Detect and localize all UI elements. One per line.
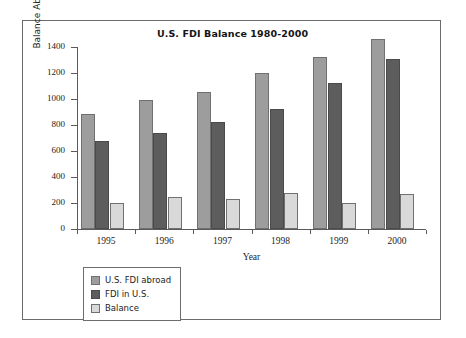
y-axis-tick-label: 1400 — [25, 42, 65, 51]
y-axis-tick-label: 200 — [25, 198, 65, 207]
x-axis-tick — [135, 230, 136, 234]
bar-1995-series-2 — [110, 203, 124, 229]
bar-1998-series-1 — [270, 109, 284, 229]
y-axis-tick-label: 1200 — [25, 68, 65, 77]
bar-2000-series-1 — [386, 59, 400, 229]
x-axis-tick — [252, 230, 253, 234]
y-axis-title: Balance Abroad (in billions of collars) — [30, 0, 44, 61]
bar-2000-series-0 — [371, 39, 385, 229]
bar-1999-series-2 — [342, 203, 356, 229]
chart-legend: U.S. FDI abroadFDI in U.S.Balance — [83, 267, 181, 321]
x-axis-tick-label: 1998 — [254, 236, 308, 246]
plot-area — [77, 47, 426, 229]
x-axis-tick-label: 1996 — [137, 236, 191, 246]
x-axis-tick-label: 1997 — [195, 236, 249, 246]
bar-1996-series-1 — [153, 133, 167, 229]
legend-swatch-icon — [91, 304, 100, 313]
legend-label: Balance — [105, 303, 139, 313]
y-axis-tick-label: 400 — [25, 172, 65, 181]
bar-1998-series-2 — [284, 193, 298, 229]
x-axis-tick-label: 2000 — [370, 236, 424, 246]
legend-label: FDI in U.S. — [105, 289, 149, 299]
legend-item: FDI in U.S. — [91, 287, 171, 301]
bar-1996-series-0 — [139, 100, 153, 229]
x-axis-tick-label: 1995 — [79, 236, 133, 246]
bar-1996-series-2 — [168, 197, 182, 229]
chart-title: U.S. FDI Balance 1980-2000 — [23, 28, 442, 39]
x-axis-title: Year — [77, 252, 426, 262]
legend-swatch-icon — [91, 276, 100, 285]
bar-1995-series-0 — [81, 114, 95, 229]
x-axis-tick — [310, 230, 311, 234]
x-axis-tick — [77, 230, 78, 234]
legend-swatch-icon — [91, 290, 100, 299]
bar-1997-series-2 — [226, 199, 240, 229]
legend-item: Balance — [91, 301, 171, 315]
y-axis-tick-label: 600 — [25, 146, 65, 155]
bar-1998-series-0 — [255, 73, 269, 229]
bar-1997-series-1 — [211, 122, 225, 229]
bar-2000-series-2 — [400, 194, 414, 229]
legend-label: U.S. FDI abroad — [105, 275, 171, 285]
y-axis-tick-label: 0 — [25, 224, 65, 233]
bar-1999-series-1 — [328, 83, 342, 229]
bar-1999-series-0 — [313, 57, 327, 229]
y-axis-tick-label: 800 — [25, 120, 65, 129]
x-axis-tick — [368, 230, 369, 234]
legend-item: U.S. FDI abroad — [91, 273, 171, 287]
y-axis-tick-label: 1000 — [25, 94, 65, 103]
x-axis-tick-label: 1999 — [312, 236, 366, 246]
x-axis-tick — [193, 230, 194, 234]
bar-1997-series-0 — [197, 92, 211, 229]
figure-frame: U.S. FDI Balance 1980-2000 Balance Abroa… — [22, 20, 441, 320]
x-axis-tick — [426, 230, 427, 234]
bar-1995-series-1 — [95, 141, 109, 229]
